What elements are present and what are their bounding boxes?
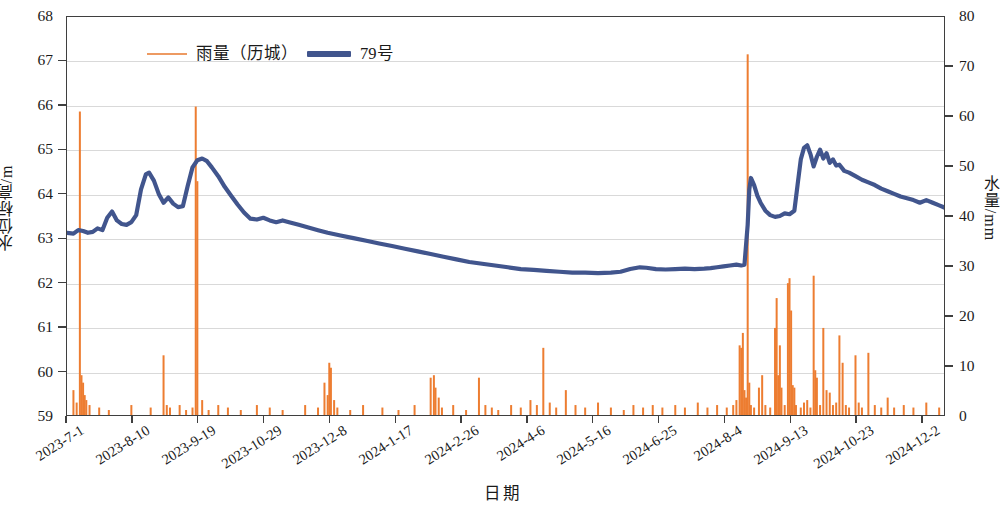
rainfall-bar bbox=[848, 408, 850, 415]
x-axis-title: 日期 bbox=[0, 480, 1005, 504]
rainfall-bar bbox=[880, 408, 882, 415]
rainfall-bar bbox=[98, 408, 100, 415]
x-axis-tick-label: 2024-9-13 bbox=[751, 422, 811, 468]
y-axis-left-tick-label: 65 bbox=[13, 142, 53, 158]
rainfall-bar bbox=[674, 405, 676, 415]
rainfall-bar bbox=[333, 400, 335, 415]
x-axis-tickmark bbox=[526, 416, 527, 423]
rainfall-bar bbox=[282, 410, 284, 415]
rainfall-bar bbox=[575, 405, 577, 415]
y-axis-left-tick-label: 66 bbox=[13, 97, 53, 113]
y-axis-left-tick-label: 63 bbox=[13, 230, 53, 246]
rainfall-bar bbox=[555, 408, 557, 415]
x-axis-tickmark bbox=[65, 416, 66, 423]
y-axis-left-tick-label: 68 bbox=[13, 8, 53, 24]
y-axis-left-tick-label: 64 bbox=[13, 186, 53, 202]
rainfall-bar bbox=[780, 388, 782, 415]
rainfall-bar bbox=[893, 408, 895, 415]
rainfall-bar bbox=[317, 408, 319, 415]
rainfall-bar bbox=[536, 405, 538, 415]
rainfall-bar bbox=[661, 408, 663, 415]
rainfall-bar bbox=[323, 383, 325, 415]
x-axis-tickmark bbox=[724, 416, 725, 423]
y-axis-right-tick-label: 10 bbox=[959, 358, 999, 374]
rainfall-bar bbox=[803, 403, 805, 415]
rainfall-bar bbox=[256, 405, 258, 415]
rainfall-bar bbox=[549, 403, 551, 415]
rainfall-bar bbox=[632, 405, 634, 415]
rainfall-bar bbox=[800, 408, 802, 415]
rainfall-bar bbox=[867, 353, 869, 415]
y-axis-right-tick-label: 70 bbox=[959, 58, 999, 74]
rainfall-bar bbox=[201, 400, 203, 415]
x-axis-tickmark bbox=[921, 416, 922, 423]
rainfall-bar bbox=[726, 408, 728, 415]
y-axis-right-tickmark bbox=[945, 265, 953, 266]
rainfall-bar bbox=[684, 408, 686, 415]
rainfall-bar bbox=[435, 388, 437, 415]
x-axis-tickmark bbox=[197, 416, 198, 423]
x-axis-tick-label: 2024-10-23 bbox=[811, 422, 877, 472]
x-axis-tickmark bbox=[658, 416, 659, 423]
rainfall-bar bbox=[362, 405, 364, 415]
rainfall-bar bbox=[784, 405, 786, 415]
y-axis-left-tick-label: 67 bbox=[13, 53, 53, 69]
y-axis-right-tick-label: 30 bbox=[959, 258, 999, 274]
x-axis-tick-label: 2024-4-6 bbox=[494, 422, 548, 465]
y-axis-left-tickmark bbox=[58, 60, 66, 61]
x-axis-tick-label: 2023-8-10 bbox=[93, 422, 153, 468]
legend: 雨量（历城） 79号 bbox=[147, 46, 394, 63]
y-axis-right-tick-label: 0 bbox=[959, 408, 999, 424]
rainfall-bar bbox=[452, 405, 454, 415]
legend-swatch-rainfall bbox=[147, 53, 187, 55]
rainfall-bar bbox=[179, 405, 181, 415]
rainfall-bar bbox=[497, 410, 499, 415]
rainfall-bar bbox=[735, 400, 737, 415]
x-axis-tickmark bbox=[329, 416, 330, 423]
rainfall-bar bbox=[753, 408, 755, 415]
y-axis-left-tickmark bbox=[58, 326, 66, 327]
water-level-line bbox=[67, 145, 944, 273]
y-axis-right-title: 水量/mm bbox=[978, 175, 1002, 241]
x-axis-tickmark bbox=[263, 416, 264, 423]
x-axis-tick-label: 2023-7-1 bbox=[33, 422, 87, 465]
rainfall-bar bbox=[597, 403, 599, 415]
rainfall-bar bbox=[478, 378, 480, 415]
y-axis-right-tickmark bbox=[945, 365, 953, 366]
y-axis-left-tickmark bbox=[58, 238, 66, 239]
rainfall-bar bbox=[72, 390, 74, 415]
rainfall-bar bbox=[938, 408, 940, 415]
rainfall-bar bbox=[397, 410, 399, 415]
rainfall-bar bbox=[79, 112, 81, 415]
rainfall-bar bbox=[826, 390, 828, 415]
rainfall-bar bbox=[465, 410, 467, 415]
rainfall-bar bbox=[652, 405, 654, 415]
rainfall-bar bbox=[76, 403, 78, 415]
rainfall-bar bbox=[565, 390, 567, 415]
x-axis-tick-label: 2024-1-17 bbox=[356, 422, 416, 468]
rainfall-bar bbox=[903, 405, 905, 415]
y-axis-left-tickmark bbox=[58, 282, 66, 283]
rainfall-bar bbox=[858, 403, 860, 415]
x-axis-tickmark bbox=[131, 416, 132, 423]
rainfall-bar bbox=[809, 408, 811, 415]
y-axis-right-tick-label: 60 bbox=[959, 108, 999, 124]
rainfall-bar bbox=[414, 405, 416, 415]
legend-label-rainfall: 雨量（历城） bbox=[196, 46, 298, 63]
rainfall-bar bbox=[163, 355, 165, 415]
rainfall-bar bbox=[349, 410, 351, 415]
rainfall-bar bbox=[832, 405, 834, 415]
rainfall-bar bbox=[912, 408, 914, 415]
rainfall-bar bbox=[169, 408, 171, 415]
rainfall-bar bbox=[764, 405, 766, 415]
rainfall-bar bbox=[510, 405, 512, 415]
rainfall-bar bbox=[829, 393, 831, 415]
x-axis-tick-label: 2024-6-25 bbox=[619, 422, 679, 468]
y-axis-right-tickmark bbox=[945, 165, 953, 166]
rainfall-bar bbox=[623, 410, 625, 415]
x-axis-tickmark bbox=[790, 416, 791, 423]
x-axis-tick-label: 2023-10-29 bbox=[218, 422, 284, 472]
rainfall-bar bbox=[887, 398, 889, 415]
rainfall-bar bbox=[130, 405, 132, 415]
rainfall-bar bbox=[874, 405, 876, 415]
